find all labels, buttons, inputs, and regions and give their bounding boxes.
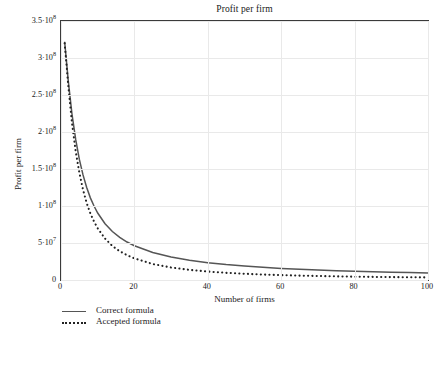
chart1-title: Profit per firm	[60, 4, 429, 14]
chart1-y-tick: 3.5·108	[32, 16, 56, 25]
gridline-horizontal	[61, 280, 428, 281]
gridline-vertical	[355, 21, 356, 280]
chart1-x-tick: 0	[58, 282, 62, 291]
chart-profit-per-firm: Profit per firm Profit per firm 05·1071·…	[0, 0, 444, 300]
gridline-vertical	[134, 21, 135, 280]
chart1-plot-area	[60, 20, 429, 281]
gridline-horizontal	[61, 206, 428, 207]
gridline-horizontal	[61, 21, 428, 22]
legend-label-accepted-formula: Accepted formula	[96, 316, 161, 326]
chart1-legend: Correct formula Accepted formula	[60, 306, 310, 328]
gridline-horizontal	[61, 132, 428, 133]
chart-profit-gap-per-firm: Profit gap per firm 2.5·107	[0, 338, 444, 372]
chart1-x-tick: 80	[350, 282, 358, 291]
gridline-horizontal	[61, 169, 428, 170]
gridline-vertical	[61, 21, 62, 280]
gridline-vertical	[281, 21, 282, 280]
chart1-y-axis-label: Profit per firm	[13, 138, 23, 190]
chart1-x-tick: 20	[129, 282, 137, 291]
gridline-vertical	[428, 21, 429, 280]
chart1-y-tick: 5·107	[38, 238, 56, 247]
chart1-y-tick: 1·108	[38, 201, 56, 210]
legend-item-accepted-formula: Accepted formula	[60, 317, 310, 328]
chart1-x-axis-label: Number of firms	[60, 294, 429, 304]
chart1-y-tick: 2.5·108	[32, 90, 56, 99]
chart1-y-tick: 3·108	[38, 53, 56, 62]
legend-line-dotted-icon	[62, 322, 86, 324]
chart1-x-tick: 40	[203, 282, 211, 291]
chart1-y-tick: 2·108	[38, 127, 56, 136]
chart1-y-tick: 0	[52, 275, 56, 284]
chart1-x-tick: 60	[276, 282, 284, 291]
chart1-line-correct-formula	[65, 42, 428, 273]
legend-label-correct-formula: Correct formula	[96, 305, 154, 315]
figure-panel: Profit per firm Profit per firm 05·1071·…	[0, 0, 444, 372]
gridline-horizontal	[61, 243, 428, 244]
gridline-horizontal	[61, 58, 428, 59]
legend-line-solid-icon	[62, 311, 86, 312]
chart1-x-tick: 100	[421, 282, 433, 291]
gridline-vertical	[208, 21, 209, 280]
chart1-y-tick: 1.5·108	[32, 164, 56, 173]
gridline-horizontal	[61, 95, 428, 96]
chart1-series-canvas	[61, 21, 428, 280]
